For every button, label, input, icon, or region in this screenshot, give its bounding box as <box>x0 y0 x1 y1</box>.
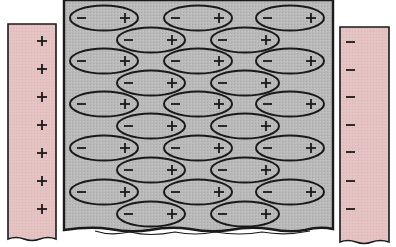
capacitor-dielectric-diagram <box>0 0 396 247</box>
left-positive-plate <box>8 24 56 241</box>
right-negative-plate <box>340 27 389 244</box>
